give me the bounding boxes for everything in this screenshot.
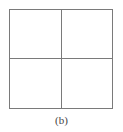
vertical-divider <box>61 10 62 108</box>
two-by-two-grid <box>9 9 113 109</box>
horizontal-divider <box>10 58 112 59</box>
figure-caption: (b) <box>0 114 123 126</box>
